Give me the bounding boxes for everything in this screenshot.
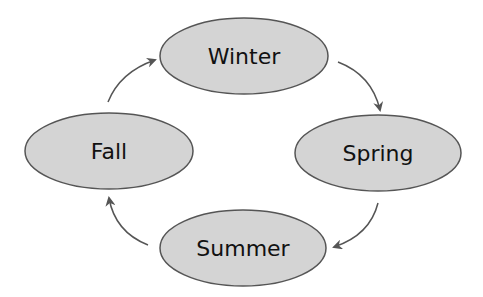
arrow-spring-to-summer xyxy=(334,203,378,247)
arrow-winter-to-spring xyxy=(338,62,380,110)
node-winter: Winter xyxy=(160,18,328,94)
seasons-cycle-diagram: Winter Spring Summer Fall xyxy=(0,0,483,297)
arrow-fall-to-winter xyxy=(108,60,155,102)
node-label-winter: Winter xyxy=(208,44,281,69)
arrow-summer-to-fall xyxy=(109,198,148,245)
node-label-spring: Spring xyxy=(343,141,414,166)
node-label-summer: Summer xyxy=(196,236,290,261)
node-spring: Spring xyxy=(295,115,461,191)
node-label-fall: Fall xyxy=(91,139,127,164)
node-fall: Fall xyxy=(25,113,193,189)
node-summer: Summer xyxy=(160,210,326,286)
